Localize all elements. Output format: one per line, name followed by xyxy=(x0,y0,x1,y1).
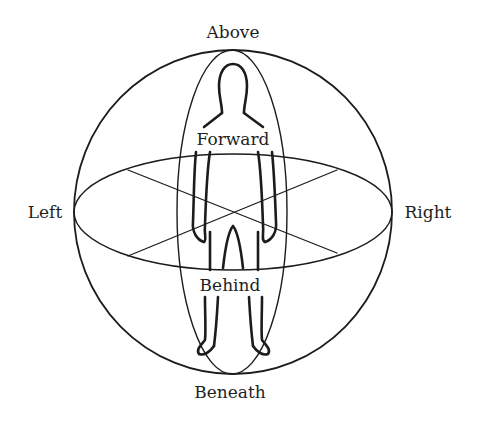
label-above: Above xyxy=(206,24,259,41)
label-right: Right xyxy=(405,204,452,221)
human-figure-icon xyxy=(193,64,276,355)
label-beneath: Beneath xyxy=(194,384,265,401)
label-forward: Forward xyxy=(196,131,271,148)
orientation-diagram: Above Forward Left Right Behind Beneath xyxy=(0,0,483,429)
label-behind: Behind xyxy=(199,277,262,294)
label-left: Left xyxy=(28,204,62,221)
